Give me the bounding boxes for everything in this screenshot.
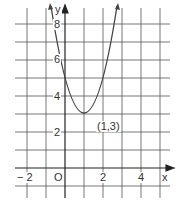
- vertex-annotation: (1,3): [96, 121, 121, 132]
- arrow-right-curve: [115, 3, 120, 10]
- x-tick-2: 2: [99, 172, 107, 183]
- x-tick-neg2: − 2: [16, 172, 34, 183]
- y-tick-2: 2: [53, 127, 61, 138]
- y-tick-6: 6: [53, 54, 61, 65]
- y-axis-label: y: [54, 4, 62, 15]
- x-tick-4: 4: [137, 172, 145, 183]
- origin-label: O: [53, 172, 64, 183]
- grid: [15, 8, 170, 198]
- y-tick-8: 8: [53, 19, 61, 30]
- x-axis-label: x: [161, 172, 169, 183]
- arrow-left-curve: [48, 3, 53, 10]
- y-tick-4: 4: [53, 91, 61, 102]
